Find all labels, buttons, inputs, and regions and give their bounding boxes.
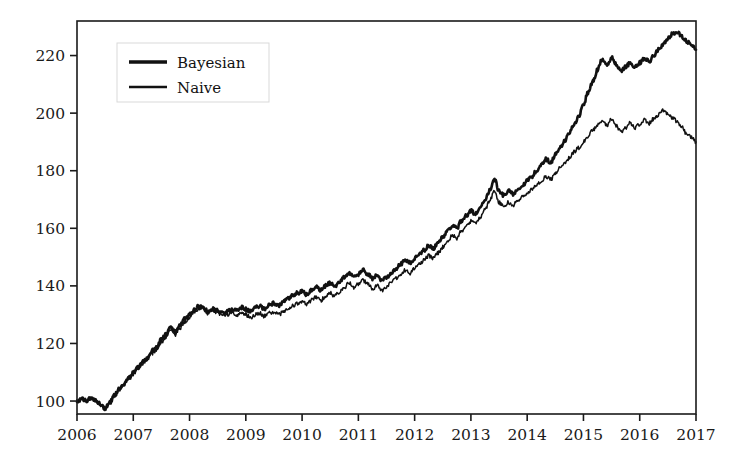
y-axis-ticks: 100120140160180200220 — [35, 47, 77, 410]
legend-label-naive: Naive — [177, 79, 221, 97]
y-tick-label: 120 — [35, 335, 65, 353]
chart-figure: 2006200720082009201020112012201320142015… — [0, 0, 745, 460]
y-tick-label: 160 — [35, 220, 65, 238]
x-tick-label: 2015 — [564, 426, 603, 444]
legend-label-bayesian: Bayesian — [177, 54, 246, 72]
line-chart-canvas: 2006200720082009201020112012201320142015… — [0, 0, 745, 460]
series-line-naive — [77, 109, 696, 410]
x-tick-label: 2012 — [395, 426, 434, 444]
x-tick-label: 2008 — [170, 426, 209, 444]
y-tick-label: 140 — [35, 277, 65, 295]
x-tick-label: 2011 — [339, 426, 378, 444]
x-tick-label: 2016 — [620, 426, 659, 444]
y-tick-label: 180 — [35, 162, 65, 180]
y-tick-label: 220 — [35, 47, 65, 65]
x-tick-label: 2006 — [57, 426, 96, 444]
x-tick-label: 2007 — [114, 426, 153, 444]
x-tick-label: 2017 — [676, 426, 715, 444]
x-tick-label: 2009 — [226, 426, 265, 444]
y-tick-label: 100 — [35, 393, 65, 411]
y-tick-label: 200 — [35, 105, 65, 123]
x-tick-label: 2010 — [282, 426, 321, 444]
x-tick-label: 2014 — [507, 426, 547, 444]
x-axis-ticks: 2006200720082009201020112012201320142015… — [57, 414, 715, 444]
chart-legend: BayesianNaive — [117, 43, 269, 102]
x-tick-label: 2013 — [451, 426, 490, 444]
